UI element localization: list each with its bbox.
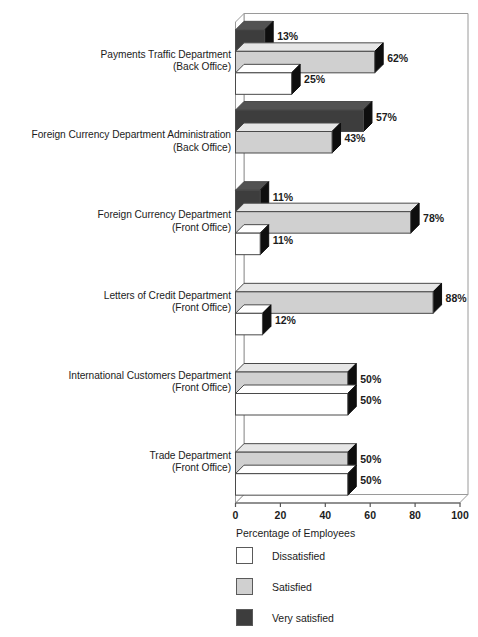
bar-top-face — [236, 385, 357, 394]
category-label-line: Payments Traffic Department — [0, 49, 231, 61]
legend-swatch-very-satisfied — [236, 609, 253, 626]
x-tick-label-0: 0 — [211, 509, 261, 521]
value-label-dissatisfied-6: 50% — [360, 474, 381, 486]
legend-label: Very satisfied — [272, 612, 334, 624]
category-label-line: International Customers Department — [0, 370, 231, 382]
category-label-line: Trade Department — [0, 450, 231, 462]
legend-label: Dissatisfied — [272, 550, 325, 562]
category-label-line: (Back Office) — [0, 61, 231, 73]
bar-dissatisfied-group-1 — [236, 64, 301, 94]
bar-top-face — [236, 444, 357, 453]
x-tick-label-5: 100 — [435, 509, 478, 521]
bar-dissatisfied-group-6 — [236, 465, 357, 495]
bar-dissatisfied-group-4 — [236, 305, 271, 335]
category-label-4: Letters of Credit Department(Front Offic… — [0, 290, 231, 315]
category-label-line: (Front Office) — [0, 382, 231, 394]
x-tick-label-2: 40 — [300, 509, 350, 521]
legend-item-dissatisfied: Dissatisfied — [236, 547, 325, 564]
category-label-5: International Customers Department(Front… — [0, 370, 231, 395]
bar-dissatisfied-group-5 — [236, 385, 357, 415]
bar-top-face — [236, 102, 372, 111]
bar-top-face — [236, 43, 384, 52]
category-label-line: (Front Office) — [0, 302, 231, 314]
bar-front-face — [236, 73, 292, 95]
bar-satisfied-group-2 — [236, 123, 341, 153]
bar-front-face — [236, 474, 348, 496]
value-label-satisfied-1: 62% — [387, 52, 408, 64]
value-label-satisfied-6: 50% — [360, 453, 381, 465]
category-label-2: Foreign Currency Department Administrati… — [0, 129, 231, 154]
category-label-1: Payments Traffic Department(Back Office) — [0, 49, 231, 74]
value-label-very-satisfied-2: 57% — [376, 111, 397, 123]
value-label-dissatisfied-1: 25% — [304, 73, 325, 85]
bar-top-face — [236, 465, 357, 474]
bar-dissatisfied-group-3 — [236, 225, 269, 255]
bar-front-face — [236, 394, 348, 416]
category-label-line: Letters of Credit Department — [0, 290, 231, 302]
category-label-line: Foreign Currency Department — [0, 209, 231, 221]
x-axis-title: Percentage of Employees — [236, 527, 355, 539]
legend-label: Satisfied — [272, 581, 312, 593]
x-tick-label-4: 80 — [390, 509, 440, 521]
bar-top-face — [236, 364, 357, 373]
value-label-satisfied-5: 50% — [360, 373, 381, 385]
value-label-satisfied-2: 43% — [345, 132, 366, 144]
chart-plot-area — [0, 0, 478, 637]
value-label-dissatisfied-4: 12% — [275, 314, 296, 326]
legend-item-very-satisfied: Very satisfied — [236, 609, 334, 626]
value-label-dissatisfied-3: 11% — [273, 234, 293, 246]
value-label-very-satisfied-3: 11% — [273, 191, 293, 203]
x-tick-label-3: 60 — [345, 509, 395, 521]
category-label-line: (Front Office) — [0, 222, 231, 234]
bar-front-face — [236, 132, 333, 154]
bar-front-face — [236, 233, 261, 255]
legend-swatch-dissatisfied — [236, 547, 253, 564]
bar-top-face — [236, 203, 420, 212]
category-label-6: Trade Department(Front Office) — [0, 450, 231, 475]
category-label-line: Foreign Currency Department Administrati… — [0, 129, 231, 141]
value-label-very-satisfied-1: 13% — [277, 30, 298, 42]
category-label-3: Foreign Currency Department(Front Office… — [0, 209, 231, 234]
bar-top-face — [236, 64, 301, 73]
bar-top-face — [236, 283, 442, 292]
x-tick-label-1: 20 — [255, 509, 305, 521]
legend-swatch-satisfied — [236, 578, 253, 595]
category-label-line: (Back Office) — [0, 142, 231, 154]
value-label-satisfied-4: 88% — [446, 292, 467, 304]
plot-floor — [236, 495, 469, 504]
value-label-satisfied-3: 78% — [423, 212, 444, 224]
bar-front-face — [236, 313, 263, 335]
value-label-dissatisfied-5: 50% — [360, 394, 381, 406]
bar-chart: Payments Traffic Department(Back Office)… — [0, 0, 478, 637]
legend-item-satisfied: Satisfied — [236, 578, 312, 595]
bar-top-face — [236, 123, 341, 132]
category-label-line: (Front Office) — [0, 462, 231, 474]
